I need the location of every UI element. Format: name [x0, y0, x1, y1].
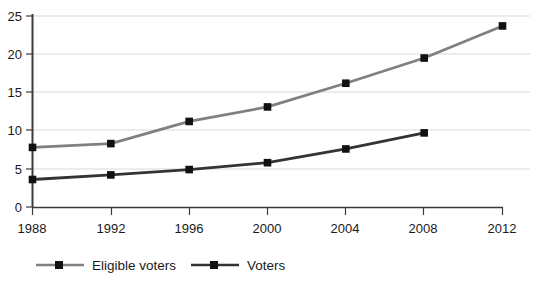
x-tick-label-1988: 1988 [18, 221, 47, 236]
data-point-eligible-voters-2012 [499, 22, 507, 30]
y-tick-label-20: 20 [8, 47, 22, 62]
data-point-eligible-voters-2008 [420, 54, 428, 62]
line-chart: 25 20 15 10 5 0 1988 1992 1996 2000 2004… [0, 0, 540, 282]
data-point-voters-2008 [420, 129, 428, 137]
data-point-eligible-voters-1996 [185, 118, 193, 126]
legend-marker-voters [210, 261, 218, 269]
x-tick-label-1992: 1992 [97, 221, 126, 236]
data-point-voters-1992 [107, 171, 115, 179]
data-point-eligible-voters-1988 [29, 144, 37, 152]
data-point-voters-2000 [264, 159, 272, 167]
x-tick-label-2008: 2008 [409, 221, 438, 236]
data-point-eligible-voters-2004 [342, 79, 350, 87]
y-tick-label-0: 0 [15, 200, 22, 215]
x-tick-label-2004: 2004 [331, 221, 360, 236]
data-point-voters-1996 [185, 166, 193, 174]
x-tick-label-1996: 1996 [175, 221, 204, 236]
legend-label-voters: Voters [247, 258, 286, 273]
x-tick-label-2012: 2012 [488, 221, 517, 236]
data-point-voters-1988 [29, 176, 37, 184]
legend-marker-eligible-voters [55, 261, 63, 269]
y-tick-label-5: 5 [15, 162, 22, 177]
data-point-eligible-voters-1992 [107, 140, 115, 148]
data-point-eligible-voters-2000 [264, 103, 272, 111]
data-point-voters-2004 [342, 145, 350, 153]
legend-label-eligible-voters: Eligible voters [92, 258, 176, 273]
y-tick-label-10: 10 [8, 123, 22, 138]
x-tick-label-2000: 2000 [253, 221, 282, 236]
y-tick-label-15: 15 [8, 85, 22, 100]
chart-canvas: 25 20 15 10 5 0 1988 1992 1996 2000 2004… [0, 0, 540, 282]
y-tick-label-25: 25 [8, 9, 22, 24]
